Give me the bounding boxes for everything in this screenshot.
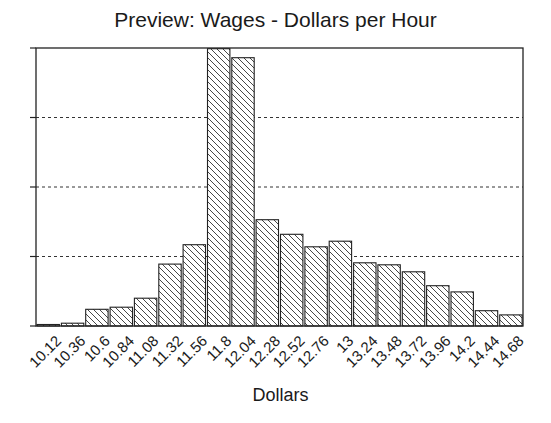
- bar-12.04: [232, 58, 254, 326]
- x-axis-tick-labels: 10.1210.3610.610.8411.0811.3211.5611.812…: [26, 332, 527, 371]
- bar-11.08: [134, 298, 156, 326]
- bar-11.56: [183, 245, 205, 326]
- bar-13.48: [378, 265, 400, 326]
- y-axis-ticks: [30, 48, 36, 326]
- bar-13: [329, 241, 351, 326]
- x-axis-label: Dollars: [0, 385, 551, 406]
- bar-12.52: [281, 234, 303, 326]
- bar-14.2: [451, 292, 473, 326]
- gridlines: [36, 118, 523, 257]
- bar-14.68: [500, 315, 522, 326]
- bar-13.24: [354, 263, 376, 326]
- bar-13.96: [427, 286, 449, 326]
- bar-10.84: [110, 307, 132, 326]
- bar-chart: 10.1210.3610.610.8411.0811.3211.5611.812…: [0, 0, 551, 423]
- bar-10.6: [86, 309, 108, 326]
- bar-14.44: [475, 311, 497, 326]
- bar-11.8: [208, 49, 230, 326]
- bar-13.72: [402, 272, 424, 326]
- bar-11.32: [159, 264, 181, 326]
- bar-12.28: [256, 220, 278, 326]
- bar-12.76: [305, 247, 327, 326]
